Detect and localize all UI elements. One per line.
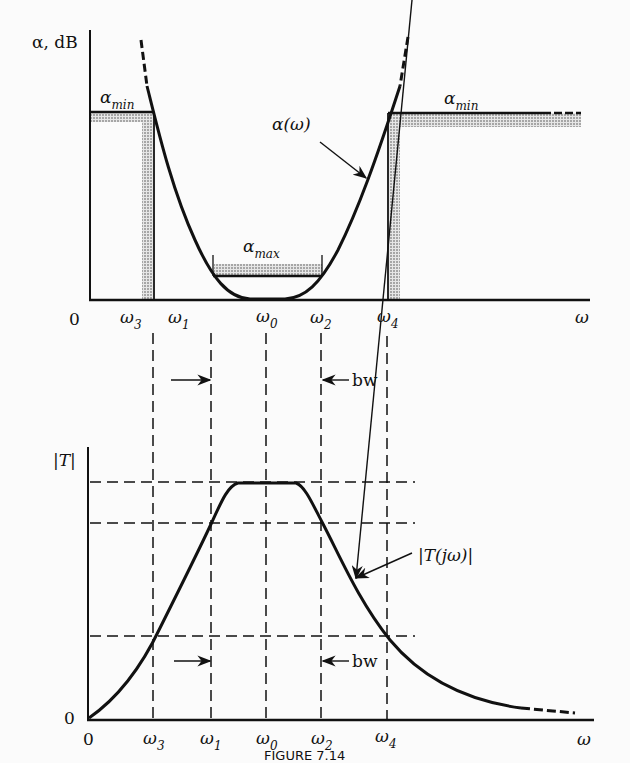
magnitude-curve (89, 483, 521, 718)
tick-omega4: ω4 (375, 726, 397, 751)
figure-caption: FIGURE 7.14 (264, 748, 345, 763)
alpha-curve-label: α(ω) (272, 114, 311, 134)
magnitude-curve-dashed-tail (521, 708, 575, 713)
figure-canvas: α, dB αmin αmin αmax α(ω) 0 ω3 ω1 ω0 ω2 … (0, 0, 630, 763)
x-axis-end-label: ω (575, 307, 589, 327)
tick-omega3: ω3 (143, 728, 165, 753)
origin-label: 0 (83, 729, 94, 749)
magnitude-curve-label: |T(jω)| (418, 545, 473, 565)
tick-omega1: ω1 (168, 307, 190, 332)
y-axis-label: |T| (53, 450, 76, 470)
tick-omega3: ω3 (120, 307, 142, 332)
magnitude-curve-pointer-line (356, 553, 412, 578)
tick-omega1: ω1 (200, 728, 222, 753)
alpha-min-left-label: αmin (100, 87, 134, 112)
stopband-shade-left-v (142, 113, 153, 300)
loss-spec-chart: α, dB αmin αmin αmax α(ω) 0 ω3 ω1 ω0 ω2 … (32, 30, 590, 332)
alpha-min-right-label: αmin (444, 88, 478, 113)
y-zero-label: 0 (64, 708, 75, 728)
tick-omega2: ω2 (310, 307, 332, 332)
bw-label-bottom: bw (352, 651, 378, 671)
stopband-shade-right-h (389, 113, 581, 127)
alpha-curve-dashed-left (141, 40, 147, 86)
alpha-max-label: αmax (243, 236, 280, 261)
alpha-curve-pointer (320, 142, 366, 178)
origin-label: 0 (69, 309, 80, 329)
magnitude-curve-pointer (356, 0, 412, 578)
tick-omega0: ω0 (256, 306, 278, 331)
y-axis-label: α, dB (32, 32, 78, 52)
x-axis-end-label: ω (577, 729, 591, 749)
passband-shade (214, 264, 322, 276)
